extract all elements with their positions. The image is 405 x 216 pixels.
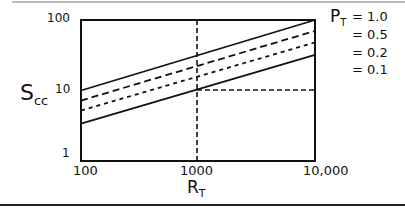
legend-item-1: = 1.0 — [352, 9, 388, 24]
x-tick-1000: 1000 — [180, 163, 213, 178]
x-axis-label-main: R — [187, 177, 199, 197]
legend-item-2: = 0.5 — [352, 27, 388, 42]
legend-item-3: = 0.2 — [352, 45, 388, 60]
y-tick-100: 100 — [47, 11, 70, 25]
series-line-1 — [81, 20, 315, 91]
x-axis-label: RT — [187, 177, 206, 200]
x-tick-10000: 10,000 — [303, 163, 349, 178]
series-line-3 — [81, 42, 315, 110]
series-lines — [81, 20, 315, 124]
legend-title-main: P — [330, 6, 340, 26]
legend-item-4: = 0.1 — [352, 62, 388, 77]
y-axis-label-main: S — [20, 80, 34, 105]
y-axis-label: Scc — [20, 80, 48, 108]
bottom-rule — [0, 204, 405, 206]
x-axis-label-sub: T — [199, 187, 206, 200]
x-tick-100: 100 — [73, 163, 98, 178]
y-axis-label-sub: cc — [34, 93, 48, 108]
legend-title: PT — [330, 6, 346, 28]
legend-title-sub: T — [340, 17, 346, 28]
y-tick-1: 1 — [62, 146, 70, 160]
y-tick-10: 10 — [55, 82, 70, 96]
